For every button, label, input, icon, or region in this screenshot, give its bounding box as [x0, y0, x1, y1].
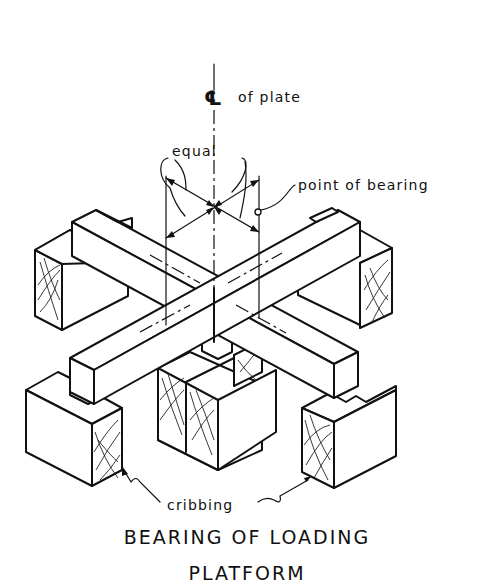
centerline-label: of plate [238, 89, 301, 105]
cribbing-label: cribbing [167, 497, 233, 513]
diagram-canvas: ℄ of plate equal point of bearing cribbi… [0, 0, 494, 586]
title-line-2: PLATFORM [188, 562, 305, 584]
point-of-bearing: point of bearing [255, 177, 429, 215]
cribbing-callout: cribbing [122, 466, 312, 513]
point-of-bearing-label: point of bearing [298, 177, 429, 193]
bearing-diagram: ℄ of plate equal point of bearing cribbi… [0, 0, 494, 586]
equal-label: equal [172, 143, 217, 159]
title-line-1: BEARING OF LOADING [124, 526, 370, 548]
centerline-symbol: ℄ [204, 86, 222, 110]
cribbing-block-front-right [302, 386, 396, 488]
diagram-title: BEARING OF LOADING PLATFORM [124, 526, 370, 584]
